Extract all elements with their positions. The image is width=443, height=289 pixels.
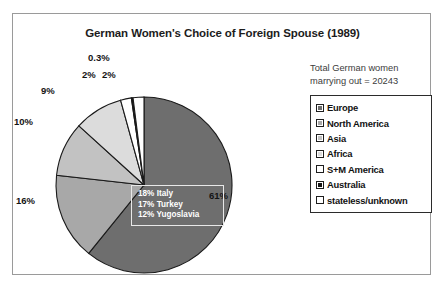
side-panel: Total German women marrying out = 20243 …: [310, 62, 435, 213]
legend-item[interactable]: stateless/unknown: [316, 192, 427, 207]
figure-frame: German Women's Choice of Foreign Spouse …: [12, 13, 431, 275]
slice-label-australia: 0.3%: [88, 52, 110, 63]
legend-item-label: Australia: [327, 179, 365, 190]
europe-breakdown-callout: 18% Italy 17% Turkey 12% Yugoslavia: [131, 185, 224, 226]
legend-item-label: Europe: [327, 102, 358, 113]
legend-swatch-icon: [316, 119, 324, 127]
breakdown-yugoslavia: 12% Yugoslavia: [138, 210, 218, 221]
pie-chart-svg: [13, 44, 283, 276]
total-note-line-1: Total German women: [310, 62, 435, 75]
breakdown-turkey: 17% Turkey: [138, 200, 218, 211]
legend-item-label: Africa: [327, 148, 352, 159]
legend-swatch-icon: [316, 134, 324, 142]
legend-item-label: S+M America: [327, 164, 384, 175]
legend-swatch-icon: [316, 165, 324, 173]
breakdown-italy: 18% Italy: [138, 189, 218, 200]
legend-item[interactable]: Africa: [316, 146, 427, 161]
page-title: German Women's Choice of Foreign Spouse …: [13, 27, 432, 39]
legend-swatch-icon: [316, 104, 324, 112]
legend-item[interactable]: Asia: [316, 131, 427, 146]
legend-swatch-icon: [316, 150, 324, 158]
legend-item-label: Asia: [327, 133, 346, 144]
pie-chart: 61% 16% 10% 9% 2% 2% 0.3% 18% Italy 17% …: [13, 44, 283, 276]
total-note-line-2: marrying out = 20243: [310, 75, 435, 88]
slice-label-north-america: 16%: [16, 195, 35, 206]
slice-label-s-m-america: 2%: [82, 69, 96, 80]
slice-label-africa: 9%: [41, 85, 55, 96]
legend-item[interactable]: Europe: [316, 100, 427, 115]
legend-item-label: North America: [327, 118, 389, 129]
slice-label-asia: 10%: [14, 116, 33, 127]
legend-item[interactable]: North America: [316, 115, 427, 130]
legend-item[interactable]: Australia: [316, 177, 427, 192]
legend-item[interactable]: S+M America: [316, 162, 427, 177]
slice-label-stateless: 2%: [102, 69, 116, 80]
legend-swatch-icon: [316, 196, 324, 204]
chart-legend: EuropeNorth AmericaAsiaAfricaS+M America…: [310, 95, 432, 213]
legend-item-label: stateless/unknown: [327, 195, 407, 206]
legend-swatch-icon: [316, 181, 324, 189]
